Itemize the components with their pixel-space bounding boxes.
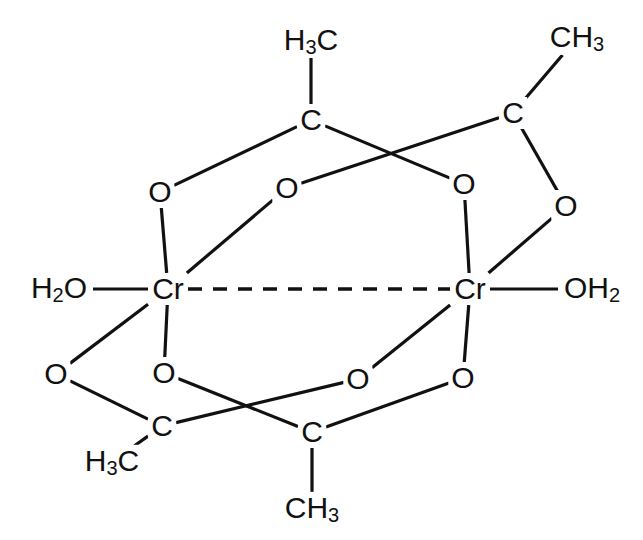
atom-label-ch3_bot_left: H3C — [82, 445, 142, 479]
bond-cr_left-o_bot_left — [165, 305, 168, 358]
bond-o_top_right-cr_right — [465, 199, 469, 273]
atom-label-o_bot_far_left: O — [41, 358, 70, 390]
bond-ch3_top_right-c_top_right — [526, 55, 563, 98]
atom-label-o_top_right: O — [449, 168, 478, 200]
atom-label-c_bot_left: C — [148, 410, 176, 442]
atom-label-c_top_left: C — [297, 104, 325, 136]
bond-cr_left-o_bot_far_left — [70, 304, 148, 363]
atom-label-cr_right: Cr — [451, 273, 489, 305]
bond-o_bot_far_left-c_bot_left — [70, 381, 148, 419]
atom-label-ch3_top_left: H3C — [281, 24, 341, 58]
bond-o_top_mid-cr_left — [187, 200, 273, 273]
atom-label-c_bot_right: C — [298, 416, 326, 448]
atom-label-o_top_mid: O — [272, 172, 301, 204]
bond-cr_right-o_bot_mid — [372, 305, 450, 368]
atom-label-oh2_right: OH2 — [561, 272, 623, 306]
bond-c_top_right-o_far_right — [522, 128, 558, 191]
bond-cr_right-o_bot_right — [464, 305, 469, 363]
atom-label-o_far_right: O — [551, 190, 580, 222]
atom-label-o_bot_mid: O — [343, 363, 372, 395]
atom-label-o_top_left: O — [145, 176, 174, 208]
bond-o_top_left-cr_left — [161, 207, 166, 273]
atom-label-o_bot_left: O — [149, 357, 178, 389]
atom-label-o_bot_right: O — [448, 362, 477, 394]
atom-label-ch3_bot_right: CH3 — [282, 492, 342, 526]
bond-o_far_right-cr_right — [489, 218, 552, 273]
atom-label-cr_left: Cr — [149, 273, 187, 305]
atom-label-h2o_left: H2O — [28, 272, 90, 306]
structure-figure: H3CCH3H3CCH3CCCCOOOOOOOOCrCrH2OOH2 — [0, 0, 643, 540]
atom-label-ch3_top_right: CH3 — [547, 21, 607, 55]
atom-label-c_top_right: C — [499, 97, 527, 129]
